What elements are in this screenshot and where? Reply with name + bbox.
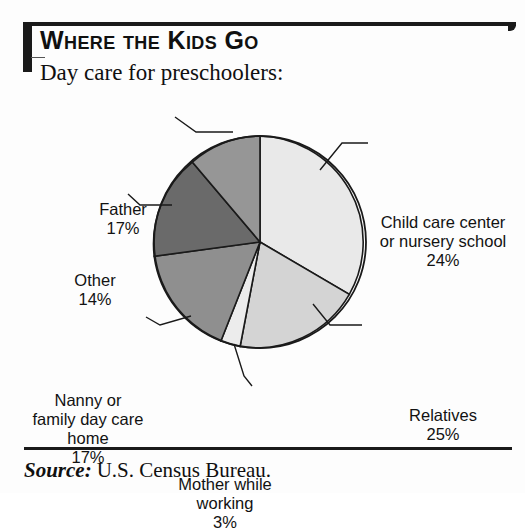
pie-label-father: Father 17% (58, 200, 188, 238)
bracket-left-bar (23, 22, 32, 72)
bracket-tail-tick (31, 57, 45, 58)
pie-label-child-care-center: Child care center or nursery school 24% (362, 213, 524, 270)
leader-line-nanny (146, 316, 191, 325)
pie-label-other: Other 14% (30, 271, 160, 309)
page-title: Where the Kids Go (40, 26, 259, 55)
pie-label-nanny-family-day-care: Nanny or family day care home 17% (8, 391, 168, 467)
footer-rule (24, 447, 512, 450)
bracket-end-cap (508, 22, 516, 31)
pie-label-relatives: Relatives 25% (368, 406, 518, 444)
source-value: U.S. Census Bureau. (97, 458, 271, 482)
source-line: Source:U.S. Census Bureau. (24, 458, 271, 483)
page-subtitle: Day care for preschoolers: (40, 60, 283, 86)
pie-label-mother-while-working: Mother while working 3% (140, 475, 310, 532)
leader-line-mother (234, 344, 252, 386)
pie-chart: Father 17% Other 14% Nanny or family day… (0, 95, 525, 440)
leader-line-father (175, 117, 233, 132)
source-keyword: Source: (24, 458, 92, 482)
